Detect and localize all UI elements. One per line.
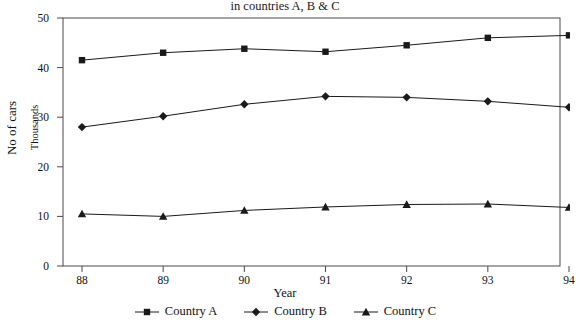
diamond-marker-icon: [484, 97, 492, 105]
square-marker-icon: [403, 42, 409, 48]
square-marker-icon: [485, 35, 491, 41]
x-axis-tick-label: 90: [224, 274, 264, 286]
y-axis-tick-label: 50: [15, 12, 49, 24]
legend-item[interactable]: Country C: [353, 304, 436, 319]
legend-label: Country B: [274, 304, 326, 319]
y-axis-tick-label: 0: [15, 260, 49, 272]
diamond-marker-icon: [78, 123, 86, 131]
diamond-marker-icon: [243, 306, 269, 318]
legend-item[interactable]: Country B: [243, 304, 326, 319]
square-marker-icon: [160, 50, 166, 56]
legend-label: Country A: [165, 304, 217, 319]
x-axis-title: Year: [0, 286, 570, 301]
x-axis-tick-label: 93: [468, 274, 508, 286]
triangle-marker-icon: [353, 306, 379, 318]
chart-subtitle: in countries A, B & C: [0, 0, 570, 14]
diamond-marker-icon: [159, 112, 167, 120]
y-axis-tick-label: 20: [15, 161, 49, 173]
x-axis-tick-label: 92: [387, 274, 427, 286]
square-marker-icon: [241, 46, 247, 52]
diamond-marker-icon: [402, 93, 410, 101]
diamond-marker-icon: [240, 100, 248, 108]
y-axis-tick-label: 10: [15, 210, 49, 222]
x-axis-tick-label: 88: [62, 274, 102, 286]
square-marker-icon: [134, 306, 160, 318]
series-line: [82, 96, 569, 127]
diamond-marker-icon: [321, 92, 329, 100]
square-marker-icon: [322, 49, 328, 55]
x-axis-tick-label: 89: [143, 274, 183, 286]
diamond-marker-icon: [252, 307, 260, 315]
y-axis-tick-label: 40: [15, 62, 49, 74]
y-axis-title-units: Thousands: [29, 88, 40, 168]
y-axis-title: No of cars: [4, 88, 20, 168]
series-line: [82, 35, 569, 60]
square-marker-icon: [144, 308, 150, 314]
chart-legend: Country ACountry BCountry C: [0, 304, 570, 319]
x-axis-tick-label: 91: [306, 274, 346, 286]
square-marker-icon: [79, 57, 85, 63]
y-axis-tick-label: 30: [15, 111, 49, 123]
legend-label: Country C: [384, 304, 436, 319]
diamond-marker-icon: [565, 103, 570, 111]
x-axis-tick-label: 94: [549, 274, 580, 286]
legend-item[interactable]: Country A: [134, 304, 217, 319]
square-marker-icon: [566, 32, 570, 38]
